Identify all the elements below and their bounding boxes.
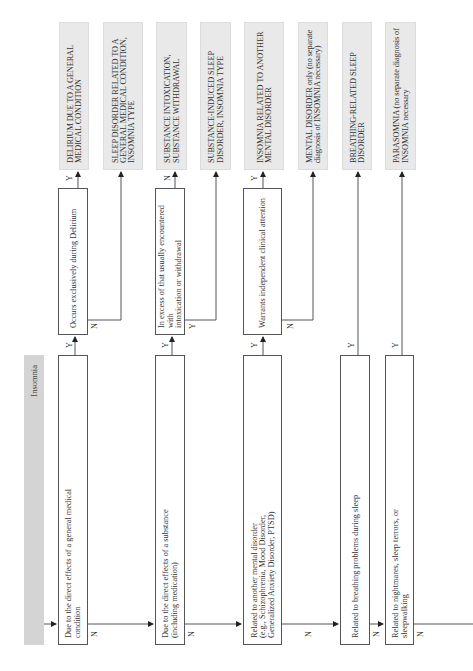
branch-label-no: N <box>91 322 99 330</box>
branch-label-yes: Y <box>348 341 356 349</box>
branch-label-no: N <box>188 630 196 638</box>
decision-independent-attention: Warrants independent clinical attention <box>243 188 282 335</box>
branch-label-yes: Y <box>392 341 400 349</box>
decision-general-medical-condition: Due to the direct effects of a general m… <box>58 355 88 645</box>
branch-label-no: N <box>373 630 381 638</box>
branch-label-yes: Y <box>162 341 170 349</box>
branch-label-yes: Y <box>251 174 259 182</box>
outcome-sleep-disorder-gmc: SLEEP DISORDER RELATED TO A GENERAL MEDI… <box>103 22 143 170</box>
branch-label-yes: Y <box>189 322 197 330</box>
branch-label-no: N <box>305 630 313 638</box>
branch-label-yes: Y <box>66 341 74 349</box>
outcome-parasomnia: PARASOMNIA (no separate diagnosis of INS… <box>385 22 416 170</box>
branch-label-yes: Y <box>66 174 74 182</box>
branch-label-no: N <box>91 630 99 638</box>
decision-breathing-problems: Related to breathing problems during sle… <box>340 355 370 645</box>
decision-during-delirium: Occurs exclusively during Delirium <box>58 188 88 335</box>
outcome-breathing-related: BREATHING-RELATED SLEEP DISORDER <box>342 22 372 170</box>
outcome-substance-induced: SUBSTANCE-INDUCED SLEEP DISORDER, INSOMN… <box>200 22 231 170</box>
outcome-substance-intoxication: SUBSTANCE INTOXICATION, SUBSTANCE WITHDR… <box>156 22 187 170</box>
start-label: Insomnia <box>29 365 39 397</box>
decision-in-excess: In excess of that usually encountered wi… <box>155 188 185 335</box>
start-node-insomnia: Insomnia <box>24 355 44 645</box>
outcome-delirium: DELIRIUM DUE TO A GENERAL MEDICAL CONDIT… <box>59 22 89 170</box>
branch-label-yes: Y <box>251 341 259 349</box>
branch-label-no: N <box>287 322 295 330</box>
outcome-insomnia-related-mental: INSOMNIA RELATED TO ANOTHER MENTAL DISOR… <box>244 22 284 170</box>
decision-another-mental-disorder: Related to another mental disorder (e.g.… <box>243 355 282 645</box>
outcome-mental-disorder-only: MENTAL DISORDER only (no separate diagno… <box>298 22 328 170</box>
branch-label-no: N <box>164 174 172 182</box>
decision-substance: Due to the direct effects of a substance… <box>155 355 185 645</box>
branch-label-no: N <box>417 630 425 638</box>
decision-nightmares: Related to nightmares, sleep terrors, or… <box>385 355 414 645</box>
